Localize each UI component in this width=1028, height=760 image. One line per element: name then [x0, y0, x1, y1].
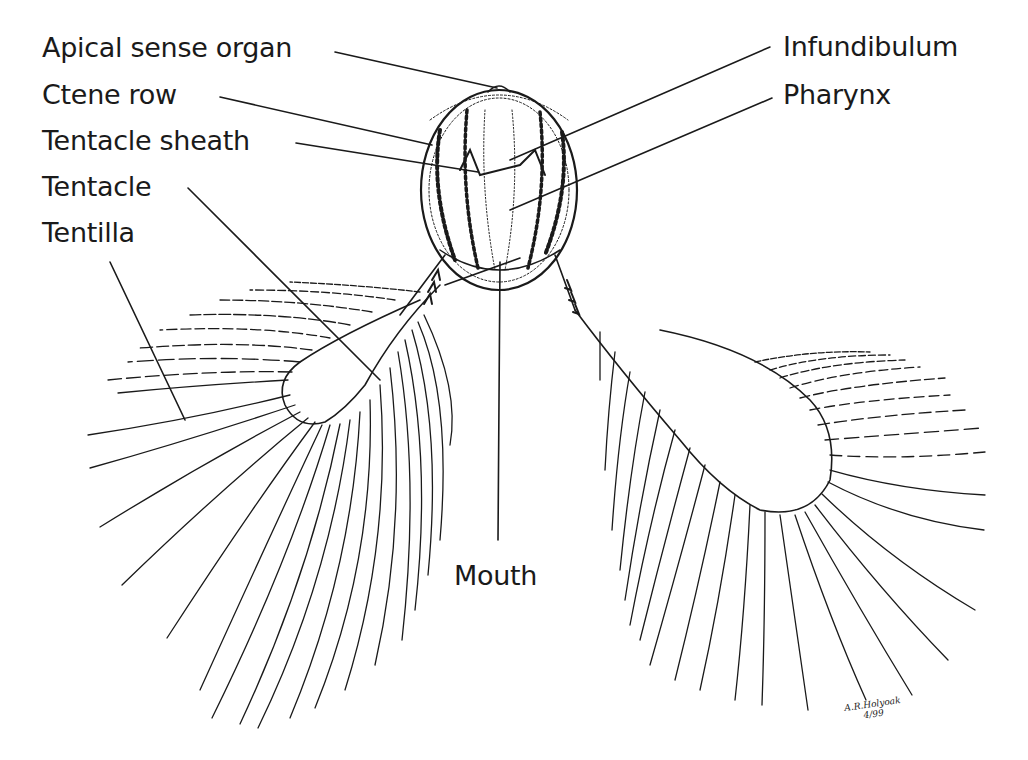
leader-lines [110, 47, 772, 540]
leader-tentilla [110, 262, 185, 420]
ctenophore-illustration [0, 0, 1028, 760]
right-tentacle [575, 310, 985, 710]
label-tentacle-sheath: Tentacle sheath [42, 127, 250, 154]
label-mouth: Mouth [454, 562, 537, 589]
diagram-canvas: Apical sense organ Ctene row Tentacle sh… [0, 0, 1028, 760]
leader-tentacle-sheath [296, 143, 478, 172]
label-ctene-row: Ctene row [42, 81, 177, 108]
label-tentilla: Tentilla [42, 219, 135, 246]
leader-infundibulum [510, 47, 770, 160]
leader-tentacle [188, 188, 380, 380]
left-tentacle [88, 282, 452, 728]
label-pharynx: Pharynx [783, 81, 891, 108]
leader-apical-sense-organ [335, 52, 497, 88]
label-tentacle: Tentacle [42, 173, 151, 200]
ctenophore-body [400, 86, 579, 315]
leader-ctene-row [220, 97, 432, 145]
leader-mouth [498, 262, 500, 540]
label-infundibulum: Infundibulum [783, 33, 958, 60]
label-apical-sense-organ: Apical sense organ [42, 34, 292, 61]
